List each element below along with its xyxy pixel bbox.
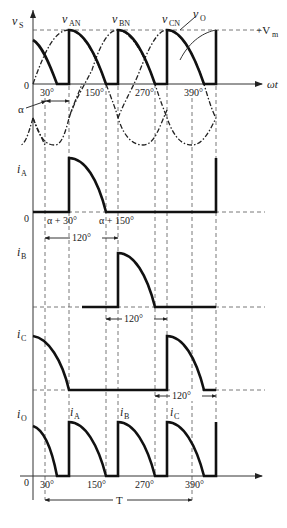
vAN-label: v [62,12,68,26]
svg-text:A: A [74,412,80,421]
iO-waveform [33,422,216,476]
vs-label: v [12,14,18,28]
svg-text:C: C [174,412,179,421]
svg-text:270°: 270° [135,87,154,98]
svg-text:AN: AN [69,19,81,28]
vO-waveform [33,30,216,84]
svg-text:390°: 390° [185,479,204,490]
iO-label: i [17,407,20,421]
iB-waveform [82,253,216,307]
svg-text:A: A [21,169,27,178]
svg-text:150°: 150° [85,87,104,98]
vO-label: v [193,7,199,21]
svg-text:S: S [19,21,23,30]
vCN-label: v [162,12,168,26]
svg-text:O: O [21,414,27,423]
iO-panel: i O i A i B i C 0 30° 150° 270° 390° T [17,405,262,506]
iC-panel: i C 120° [17,327,265,401]
iB-panel: i B 120° [17,245,265,324]
iC-label: i [17,327,20,341]
guide-lines [45,30,216,500]
alpha-150-label: α + 150° [99,215,134,226]
svg-text:390°: 390° [184,87,203,98]
iA-interval-label: 120° [72,232,91,243]
vm-label: +V [256,24,270,36]
svg-text:0: 0 [24,213,29,224]
svg-text:i: i [170,405,173,419]
iA-panel: i A 0 α + 30° α + 150° 120° [17,158,265,243]
svg-text:B: B [21,252,26,261]
period-label: T [116,494,123,506]
svg-text:30°: 30° [40,87,54,98]
svg-text:30°: 30° [40,479,54,490]
svg-text:i: i [120,405,123,419]
svg-text:270°: 270° [135,479,154,490]
iA-label: i [17,162,20,176]
voltage-panel: v S v AN v BN v CN v O +V m ωt 0 30° 150… [12,7,279,145]
iC-waveform [33,336,216,390]
iC-interval-label: 120° [172,390,191,401]
svg-text:150°: 150° [87,479,106,490]
svg-text:B: B [124,412,129,421]
waveform-diagram: v S v AN v BN v CN v O +V m ωt 0 30° 150… [0,0,287,528]
wt-axis-label: ωt [267,78,279,90]
svg-text:O: O [200,14,206,23]
svg-text:CN: CN [169,19,180,28]
alpha-label: α [18,103,24,115]
iB-interval-label: 120° [124,313,143,324]
iB-label: i [17,245,20,259]
axis-arrow-icon [30,10,36,18]
alpha-30-label: α + 30° [47,215,77,226]
svg-text:0: 0 [24,477,29,488]
svg-text:BN: BN [119,19,130,28]
iA-waveform [33,158,216,212]
svg-text:C: C [21,334,26,343]
svg-text:m: m [272,30,279,39]
vBN-label: v [112,12,118,26]
svg-text:0: 0 [24,80,29,91]
svg-text:i: i [70,405,73,419]
